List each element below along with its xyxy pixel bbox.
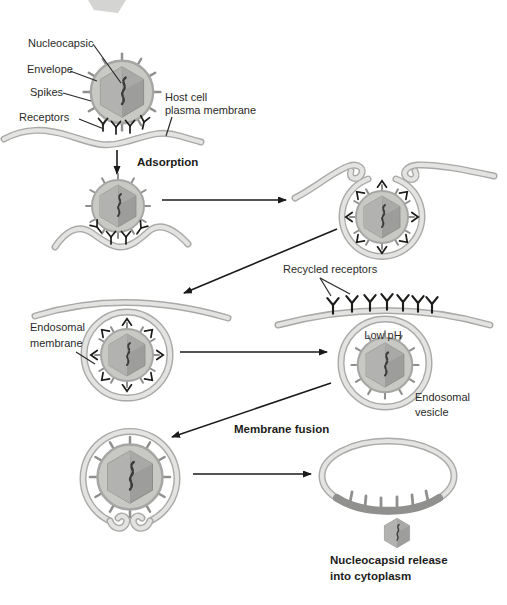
label-endosomal-membrane-1: Endosomal xyxy=(30,321,85,333)
receptor-chevron xyxy=(145,327,156,338)
label-low-ph: Low pH xyxy=(364,329,401,341)
scan-artifact xyxy=(88,0,126,13)
label-host-cell-1: Host cell xyxy=(165,91,207,103)
label-nucleocapsid-release-2: into cytoplasm xyxy=(330,570,411,582)
label-host-cell-2: plasma membrane xyxy=(165,104,256,116)
label-spikes: Spikes xyxy=(30,86,64,98)
label-adsorption: Adsorption xyxy=(137,156,198,168)
label-endosomal-vesicle-2: vesicle xyxy=(415,406,449,418)
label-endosomal-vesicle-1: Endosomal xyxy=(415,391,470,403)
label-membrane-fusion: Membrane fusion xyxy=(234,423,329,435)
plasma-membrane-wave-1 xyxy=(4,130,201,145)
stage-3-endocytosis xyxy=(295,165,494,257)
stage-6-membrane-fusion xyxy=(83,431,177,528)
endocytosis-diagram: Nucleocapsic Envelope Spikes Receptors H… xyxy=(0,0,507,605)
label-endosomal-membrane-2: membrane xyxy=(30,337,83,349)
arrow-stage3-to-4 xyxy=(184,229,337,293)
stage-1-attachment: Nucleocapsic Envelope Spikes Receptors H… xyxy=(4,37,256,145)
virion-stage3 xyxy=(350,185,414,249)
label-receptors: Receptors xyxy=(19,111,70,123)
label-nucleocapsid-release-1: Nucleocapsid release xyxy=(330,554,448,566)
label-nucleocapsid: Nucleocapsic xyxy=(28,37,94,49)
virion-stage5 xyxy=(351,331,418,398)
receptor-chevron xyxy=(99,327,110,338)
virion-stage6 xyxy=(90,437,170,517)
label-recycled-receptors: Recycled receptors xyxy=(283,263,378,275)
label-envelope: Envelope xyxy=(27,63,73,75)
stage-2-adsorbed xyxy=(55,174,188,247)
receptor-chevron xyxy=(99,373,110,384)
leader-spikes xyxy=(63,93,91,101)
figure-canvas: Nucleocapsic Envelope Spikes Receptors H… xyxy=(0,0,507,605)
receptor-chevron xyxy=(145,373,156,384)
fused-envelope-band xyxy=(337,498,439,511)
stage-4-endosome: Endosomal membrane xyxy=(30,302,228,398)
released-nucleocapsid xyxy=(384,518,409,547)
virion-stage4 xyxy=(95,323,159,387)
stage-5-low-ph-endosome: Low pH Endosomal vesicle xyxy=(341,319,470,418)
stage-7-release: Nucleocapsid release into cytoplasm xyxy=(322,441,454,582)
